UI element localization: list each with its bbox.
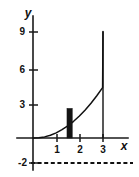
x-axis-label: x <box>120 139 129 153</box>
plot-area: 9 6 3 -2 1 2 3 y x <box>0 0 139 177</box>
y-tick-label-3: 3 <box>19 99 25 110</box>
y-axis-label: y <box>24 6 33 20</box>
y-tick-label-6: 6 <box>19 64 25 75</box>
y-tick-label-9: 9 <box>19 26 25 37</box>
y-tick-label-neg2: -2 <box>18 157 27 168</box>
x-tick-label-3: 3 <box>100 144 106 155</box>
figure-container: 9 6 3 -2 1 2 3 y x <box>0 0 139 177</box>
x-tick-label-2: 2 <box>77 144 83 155</box>
riemann-strip <box>67 109 72 139</box>
x-tick-label-1: 1 <box>54 144 60 155</box>
